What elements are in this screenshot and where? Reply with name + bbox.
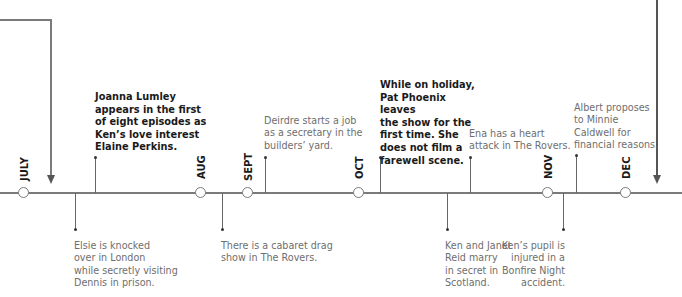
event-text: Deirdre starts a job as a secretary in t… [264,115,384,152]
event-tick [75,193,77,229]
event-text: While on holiday, Pat Phoenix leaves the… [380,79,480,167]
event-tick [265,157,267,193]
event-text: Elsie is knocked over in London while se… [74,240,204,290]
month-circle-icon [620,187,631,198]
event-text: Ken’s pupil is injured in a Bonfire Nigh… [484,240,565,290]
event-text: Joanna Lumley appears in the first of ei… [95,91,225,154]
event-text: Albert proposes to Minnie Caldwell for f… [574,102,674,152]
event-tick [470,157,472,193]
month-circle-icon [353,187,364,198]
event-text: There is a cabaret drag show in The Rove… [221,240,361,265]
tick-dot-icon [74,228,77,231]
tick-dot-icon [469,156,472,159]
month-label: NOV [543,155,554,179]
month-circle-icon [542,187,553,198]
event-tick [95,157,97,193]
arrow-down-icon [653,175,661,184]
incoming-connector-vertical [50,19,52,175]
month-label: OCT [354,156,365,179]
event-tick [563,193,565,229]
tick-dot-icon [446,228,449,231]
tick-dot-icon [94,156,97,159]
month-circle-icon [18,187,29,198]
tick-dot-icon [264,156,267,159]
month-label: DEC [621,157,632,179]
event-text: Ena has a heart attack in The Rovers. [469,128,579,153]
month-label: AUG [196,155,207,179]
timeline-axis [0,192,682,194]
tick-dot-icon [221,228,224,231]
incoming-connector-horizontal [0,19,51,21]
month-circle-icon [195,187,206,198]
tick-dot-icon [562,228,565,231]
arrow-down-icon [47,175,55,184]
month-label: JULY [19,157,30,181]
tick-dot-icon [575,154,578,157]
event-tick [447,193,449,229]
event-tick [576,155,578,193]
month-label: SEPT [243,153,254,181]
event-tick [222,193,224,229]
month-circle-icon [242,187,253,198]
